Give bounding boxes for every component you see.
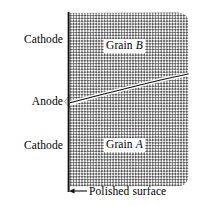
label-cathode-bottom: Cathode bbox=[24, 139, 63, 151]
grain-a-prefix: Grain bbox=[106, 138, 133, 150]
label-cathode-top: Cathode bbox=[24, 33, 63, 45]
label-anode: Anode bbox=[32, 95, 63, 107]
grain-b-name: B bbox=[136, 39, 143, 51]
label-grain-a: Grain A bbox=[104, 138, 145, 152]
polished-surface-arrowhead bbox=[69, 188, 75, 193]
grain-a-name: A bbox=[136, 138, 143, 150]
label-grain-b: Grain B bbox=[104, 39, 145, 53]
label-polished-surface: Polished surface bbox=[89, 185, 166, 197]
figure-root: Cathode Anode Cathode Grain B Grain A Po… bbox=[0, 0, 206, 206]
grain-b-prefix: Grain bbox=[106, 39, 133, 51]
